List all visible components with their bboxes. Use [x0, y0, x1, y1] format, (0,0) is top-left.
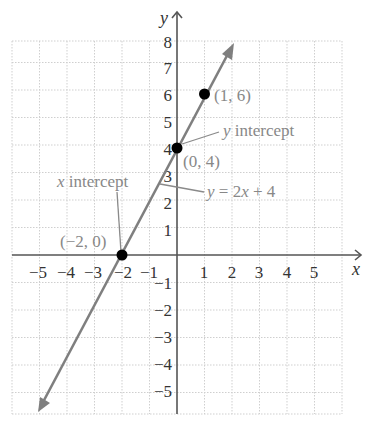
- point-label-neg2-0: (−2, 0): [60, 232, 106, 251]
- x-tick: 2: [228, 263, 237, 282]
- x-axis-label: x: [351, 259, 360, 279]
- line-arrow-top-icon: [222, 43, 234, 60]
- point-1-6: [199, 89, 210, 100]
- y-axis-label: y: [158, 8, 168, 28]
- y-tick: 2: [164, 194, 173, 213]
- point-label-1-6: (1, 6): [214, 86, 251, 105]
- y-tick: −3: [154, 328, 172, 347]
- y-tick: 4: [164, 140, 173, 159]
- coordinate-plane: x y −5 −4 −3 −2 −1 1 2 3 4 5 8 7 6 5 4 3…: [0, 0, 374, 437]
- equation-leader: [160, 184, 204, 192]
- point-neg2-0: [117, 250, 128, 261]
- x-tick-labels: −5 −4 −3 −2 −1 1 2 3 4 5: [29, 263, 318, 282]
- y-tick: 1: [164, 221, 173, 240]
- axes: [12, 12, 361, 414]
- x-tick: −3: [84, 263, 102, 282]
- y-tick: 5: [164, 113, 173, 132]
- x-tick: 4: [283, 263, 292, 282]
- y-tick: 7: [164, 59, 173, 78]
- equation-annotation: y = 2x + 4: [205, 182, 276, 201]
- x-tick: 1: [200, 263, 209, 282]
- x-intercept-leader: [117, 192, 121, 252]
- y-tick: −5: [154, 382, 172, 401]
- x-tick: 3: [255, 263, 264, 282]
- y-tick-labels: 8 7 6 5 4 3 2 1 −1 −2 −3 −4 −5: [154, 33, 173, 401]
- y-tick: −2: [154, 301, 172, 320]
- x-tick: −5: [29, 263, 47, 282]
- y-tick: 8: [164, 33, 173, 52]
- y-intercept-leader: [182, 132, 219, 144]
- x-tick: −4: [57, 263, 76, 282]
- x-intercept-annotation: x intercept: [56, 172, 129, 191]
- y-intercept-annotation: y intercept: [221, 121, 295, 140]
- point-label-0-4: (0, 4): [183, 152, 220, 171]
- point-0-4: [172, 143, 183, 154]
- y-tick: −1: [154, 274, 172, 293]
- y-tick: −4: [154, 355, 173, 374]
- y-tick: 6: [164, 86, 173, 105]
- x-tick: 5: [310, 263, 319, 282]
